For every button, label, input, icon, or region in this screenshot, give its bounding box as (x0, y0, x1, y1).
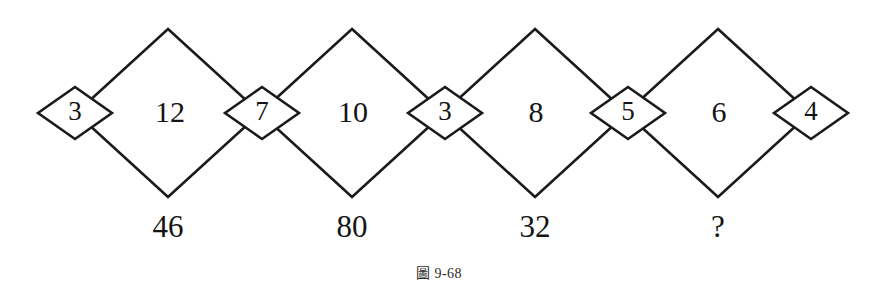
small-diamond-value-4: 5 (621, 96, 635, 126)
diamond-chain-diagram: 12 10 8 6 3 7 3 5 4 46 80 32 ? (0, 0, 878, 306)
small-diamond-value-1: 3 (68, 96, 82, 126)
result-value-3: 32 (520, 209, 551, 244)
caption-number: 9-68 (434, 266, 462, 282)
large-diamond-value-4: 6 (712, 95, 727, 128)
caption-label: 圖 (416, 262, 431, 282)
small-diamond-value-5: 4 (804, 96, 818, 126)
large-diamond-value-2: 10 (338, 95, 368, 128)
figure-container: 12 10 8 6 3 7 3 5 4 46 80 32 ? 圖9-68 (0, 0, 878, 306)
result-value-unknown: ? (711, 209, 725, 244)
large-diamond-value-1: 12 (155, 95, 185, 128)
small-diamond-value-2: 7 (255, 96, 269, 126)
figure-caption: 圖9-68 (0, 262, 878, 282)
large-diamond-value-3: 8 (529, 95, 544, 128)
result-value-1: 46 (153, 209, 184, 244)
result-value-2: 80 (337, 209, 368, 244)
small-diamond-value-3: 3 (438, 96, 452, 126)
result-values: 46 80 32 ? (153, 209, 725, 244)
